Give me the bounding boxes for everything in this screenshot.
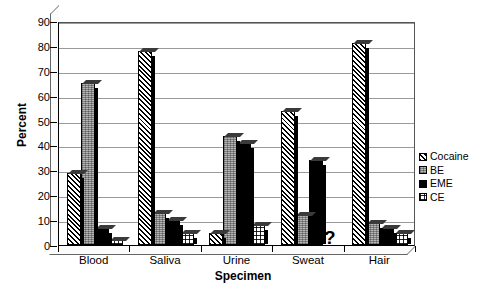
bar-group (345, 21, 416, 245)
bar-side-face (264, 230, 268, 244)
x-category-label: Blood (54, 254, 134, 266)
bar-side-face (193, 238, 197, 244)
legend-swatch-icon (419, 180, 427, 188)
bar-top-face (224, 133, 244, 137)
bar-group (130, 21, 201, 245)
bar (209, 233, 223, 245)
legend-label: Cocaine (430, 150, 469, 164)
bar-top-face (110, 237, 130, 241)
bar-top-face (68, 170, 88, 174)
bar-side-face (165, 218, 169, 244)
bar-group (59, 21, 130, 245)
legend-item-eme: EME (419, 177, 469, 191)
bar-top-face (139, 48, 159, 52)
bar-top-face (96, 225, 116, 229)
legend-label: BE (430, 164, 444, 178)
bar-group (202, 21, 273, 245)
x-tick-mark (129, 246, 130, 252)
y-tick-label: 30 (16, 166, 50, 176)
legend-label: EME (430, 177, 453, 191)
y-tick-mark (50, 146, 57, 147)
y-tick-label: 40 (16, 141, 50, 151)
bar (223, 136, 237, 246)
bar-side-face (108, 233, 112, 244)
bar-side-face (151, 56, 155, 244)
y-tick-mark (50, 246, 57, 247)
bar-side-face (308, 220, 312, 244)
y-tick-mark (50, 47, 57, 48)
x-tick-mark (58, 246, 59, 252)
bar-top-face (181, 230, 201, 234)
x-tick-mark (415, 246, 416, 252)
y-tick-mark (50, 221, 57, 222)
bar-chart-figure: Percent 9080706050403020100 ? BloodSaliv… (0, 0, 486, 291)
y-tick-mark (50, 196, 57, 197)
bar-side-face (393, 233, 397, 244)
bar (281, 111, 295, 245)
bar-top-face (167, 217, 187, 221)
x-tick-mark (201, 246, 202, 252)
y-tick-label: 20 (16, 191, 50, 201)
bar-side-face (94, 88, 98, 244)
bar-side-face (379, 228, 383, 244)
y-tick-mark (50, 171, 57, 172)
x-tick-mark (272, 246, 273, 252)
bar-top-face (252, 222, 272, 226)
bar-top-face (82, 80, 102, 84)
bar (67, 173, 81, 245)
y-tick-label: 90 (16, 17, 50, 27)
x-tick-mark (344, 246, 345, 252)
bar-side-face (294, 116, 298, 244)
y-tick-label: 70 (16, 67, 50, 77)
x-category-label: Saliva (125, 254, 205, 266)
x-category-label: Hair (339, 254, 419, 266)
y-tick-label: 50 (16, 117, 50, 127)
bar (138, 51, 152, 245)
legend-swatch-icon (419, 193, 427, 201)
bar-side-face (365, 48, 369, 244)
bar-top-face (282, 108, 302, 112)
legend-swatch-icon (419, 166, 427, 174)
y-tick-label: 80 (16, 42, 50, 52)
bar-top-face (238, 140, 258, 144)
bar-side-face (236, 141, 240, 245)
bar-side-face (179, 225, 183, 244)
plot-area: ? (58, 22, 415, 246)
y-tick-mark (50, 72, 57, 73)
y-tick-label: 60 (16, 92, 50, 102)
bar-top-face (153, 210, 173, 214)
bar-top-face (367, 220, 387, 224)
bar-top-face (395, 230, 415, 234)
x-category-label: Sweat (268, 254, 348, 266)
legend-swatch-icon (419, 153, 427, 161)
y-tick-label: 10 (16, 216, 50, 226)
legend-item-be: BE (419, 164, 469, 178)
bar-side-face (250, 148, 254, 244)
y-tick-mark (50, 97, 57, 98)
bar-side-face (222, 238, 226, 244)
y-tick-mark (50, 122, 57, 123)
y-axis-ticks: 9080706050403020100 (8, 22, 50, 246)
bar-side-face (407, 238, 411, 244)
bar-group: ? (273, 21, 344, 245)
chart-legend: CocaineBEEMECE (419, 150, 469, 204)
bar-top-face (310, 157, 330, 161)
bar (352, 43, 366, 245)
legend-label: CE (430, 191, 445, 205)
legend-item-ce: CE (419, 191, 469, 205)
x-category-label: Urine (197, 254, 277, 266)
legend-item-cocaine: Cocaine (419, 150, 469, 164)
bar-side-face (322, 165, 326, 244)
bar-top-face (381, 225, 401, 229)
bar-top-face (353, 40, 373, 44)
x-axis-title: Specimen (0, 269, 486, 283)
bar-side-face (80, 178, 84, 244)
y-tick-label: 0 (16, 241, 50, 251)
y-tick-mark (50, 22, 57, 23)
